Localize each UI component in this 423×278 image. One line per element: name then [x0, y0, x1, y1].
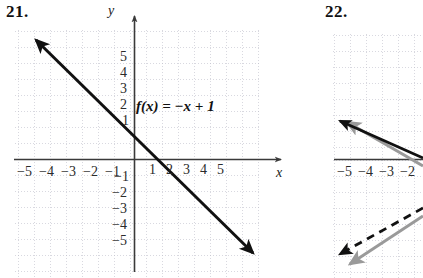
y-tick-2: 2	[120, 98, 127, 112]
y-tick-3: 3	[120, 82, 127, 96]
x-tick--2-22: −2	[400, 165, 415, 179]
x-tick-5: 5	[217, 163, 224, 177]
function-line-21	[36, 40, 253, 253]
y-tick--5: −5	[112, 234, 127, 248]
x-tick--3: −3	[61, 165, 76, 179]
x-tick-2: 2	[166, 163, 173, 177]
dashed-line-22	[340, 208, 423, 254]
y-tick-4: 4	[120, 66, 127, 80]
y-tick-1: 1	[122, 114, 129, 128]
x-axis-label-21: x	[276, 165, 282, 181]
problem-panel-22: 22. −5 −4 −	[300, 0, 423, 278]
graph-svg-22	[300, 0, 423, 278]
y-tick--3: −3	[112, 202, 127, 216]
dashed-line-shadow-22	[350, 216, 423, 264]
x-tick--3-22: −3	[379, 165, 394, 179]
x-tick-3: 3	[183, 163, 190, 177]
y-tick--4: −4	[112, 218, 127, 232]
x-tick--4: −4	[39, 165, 54, 179]
graph-svg-21	[0, 0, 300, 278]
y-tick-5: 5	[120, 50, 127, 64]
function-equation-21: f(x) = −x + 1	[136, 98, 215, 115]
x-tick--2: −2	[83, 165, 98, 179]
x-tick--5: −5	[17, 165, 32, 179]
x-tick--4-22: −4	[358, 165, 373, 179]
y-tick--1: −1	[114, 170, 129, 184]
problem-panel-21: 21. y	[0, 0, 300, 278]
x-tick-4: 4	[200, 163, 207, 177]
x-tick-1: 1	[149, 163, 156, 177]
y-tick--2: −2	[112, 186, 127, 200]
solid-line-22	[340, 121, 423, 158]
y-axis-label-21: y	[108, 3, 114, 19]
x-tick--5-22: −5	[337, 165, 352, 179]
